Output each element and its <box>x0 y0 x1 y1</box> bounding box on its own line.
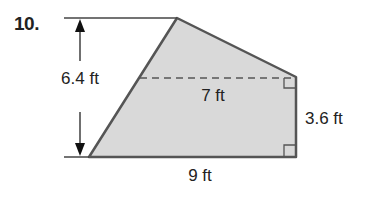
shaded-region <box>89 18 296 157</box>
composite-figure: 6.4 ft 7 ft 3.6 ft 9 ft <box>0 0 370 199</box>
base-label: 9 ft <box>188 166 212 185</box>
arrow-up-icon <box>75 19 85 32</box>
height-label: 6.4 ft <box>61 69 99 88</box>
arrow-down-icon <box>75 143 85 156</box>
dashed-width-label: 7 ft <box>201 86 225 105</box>
right-side-label: 3.6 ft <box>305 109 343 128</box>
